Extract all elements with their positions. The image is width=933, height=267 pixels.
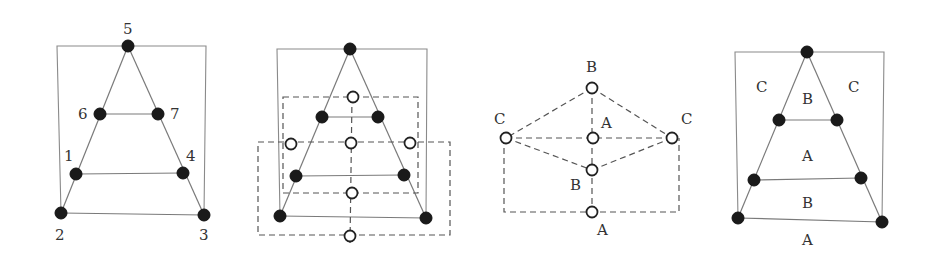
dual-node-right bbox=[667, 133, 678, 144]
label-node-5: 5 bbox=[123, 20, 133, 38]
dual-node-left-face bbox=[286, 139, 297, 150]
node-lower-right bbox=[855, 172, 867, 184]
label-node-1: 1 bbox=[64, 147, 74, 165]
label-dual-lower: B bbox=[570, 176, 581, 194]
face-label-outer-bottom: A bbox=[801, 231, 813, 249]
node-6 bbox=[94, 108, 106, 120]
node-bottom-right bbox=[420, 212, 432, 224]
label-node-4: 4 bbox=[186, 147, 196, 165]
label-dual-bottom: A bbox=[596, 221, 608, 239]
panel-3-dual-graph: B C A C B A bbox=[494, 58, 692, 239]
dual-node-center bbox=[588, 133, 599, 144]
outer-frame bbox=[57, 46, 206, 215]
edge-2-5 bbox=[61, 46, 128, 213]
dual-edge-right-lower bbox=[592, 138, 672, 170]
face-label-middle-face: A bbox=[801, 147, 813, 165]
dual-node-outer-face bbox=[345, 231, 356, 242]
edge-bottom bbox=[738, 218, 882, 222]
dual-edge-top-left bbox=[506, 88, 592, 138]
face-label-top-face: B bbox=[802, 90, 813, 108]
node-upper-left bbox=[773, 114, 785, 126]
dual-node-right-face bbox=[405, 138, 416, 149]
node-upper-right bbox=[831, 114, 843, 126]
node-4 bbox=[177, 167, 189, 179]
label-node-3: 3 bbox=[199, 226, 209, 244]
dual-edge-left-lower bbox=[506, 138, 592, 170]
node-3 bbox=[198, 209, 210, 221]
graph-coloring-figure: 5 6 7 1 4 2 3 bbox=[0, 0, 933, 267]
node-lower-left bbox=[290, 170, 302, 182]
edge-bottom bbox=[280, 216, 426, 218]
label-dual-left: C bbox=[494, 110, 505, 128]
label-node-2: 2 bbox=[55, 226, 65, 244]
panel-2-dual-construction bbox=[258, 43, 450, 245]
node-top bbox=[344, 43, 356, 55]
dual-node-lower bbox=[587, 165, 598, 176]
edge-lower-bar bbox=[296, 175, 404, 176]
edge-3-5 bbox=[128, 46, 204, 215]
label-node-7: 7 bbox=[170, 105, 180, 123]
face-label-outer-right: C bbox=[848, 78, 859, 96]
edge-2-3 bbox=[61, 213, 204, 215]
edge-1-4 bbox=[76, 173, 183, 174]
node-upper-right bbox=[372, 111, 384, 123]
edge-left-side bbox=[280, 49, 350, 216]
node-bottom-right bbox=[876, 216, 888, 228]
node-1 bbox=[70, 168, 82, 180]
dual-node-lower-face bbox=[347, 188, 358, 199]
panel-1-triangle-graph: 5 6 7 1 4 2 3 bbox=[55, 20, 210, 244]
dual-node-top bbox=[587, 83, 598, 94]
label-dual-center: A bbox=[600, 114, 612, 132]
label-node-6: 6 bbox=[78, 105, 88, 123]
node-bottom-left bbox=[732, 212, 744, 224]
dual-node-top-face bbox=[348, 92, 359, 103]
dual-node-middle-face bbox=[346, 138, 357, 149]
panel-4-face-coloring: C C B A B A bbox=[732, 46, 888, 249]
dual-vertical-axis bbox=[350, 97, 352, 245]
node-2 bbox=[55, 207, 67, 219]
label-dual-top: B bbox=[586, 58, 597, 76]
node-lower-right bbox=[398, 169, 410, 181]
edge-left-side bbox=[738, 52, 807, 218]
edge-lower-bar bbox=[754, 178, 861, 180]
node-7 bbox=[152, 108, 164, 120]
node-top bbox=[801, 46, 813, 58]
node-upper-left bbox=[316, 111, 328, 123]
face-label-outer-left: C bbox=[756, 78, 767, 96]
dual-node-left bbox=[501, 133, 512, 144]
node-bottom-left bbox=[274, 210, 286, 222]
face-label-lower-face: B bbox=[802, 194, 813, 212]
dual-node-bottom bbox=[587, 207, 598, 218]
label-dual-right: C bbox=[681, 110, 692, 128]
node-lower-left bbox=[748, 174, 760, 186]
edge-right-side bbox=[807, 52, 882, 222]
node-5 bbox=[122, 40, 134, 52]
